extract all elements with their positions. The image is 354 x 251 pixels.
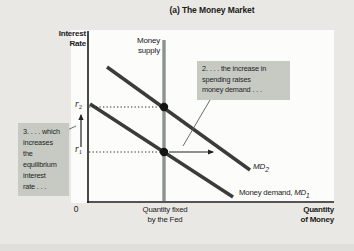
- md1-base: MD: [294, 188, 306, 197]
- callout3-line5: interest: [23, 170, 65, 181]
- x-tick-line1: Quantity fixed: [123, 205, 207, 215]
- callout3-line6: rate . . .: [23, 181, 65, 192]
- y-axis-label: Interest Rate: [28, 29, 86, 49]
- md1-subscript: 1: [306, 192, 309, 199]
- r1-subscript: 1: [79, 148, 82, 155]
- callout3-line2: increases: [23, 137, 65, 148]
- r2-subscript: 2: [79, 103, 82, 110]
- money-supply-label-line2: supply: [104, 46, 160, 56]
- callout-increases-equilibrium-rate: 3. . . . which increases the equilibrium…: [18, 123, 69, 196]
- x-tick-quantity-fixed: Quantity fixed by the Fed: [123, 205, 207, 225]
- callout3-line3: the: [23, 148, 65, 159]
- callout3-line1: 3. . . . which: [23, 126, 65, 137]
- md2-curve-label: MD2: [253, 162, 269, 173]
- x-axis-label: Quantity of Money: [272, 205, 334, 225]
- callout2-line3: money demand . . .: [202, 85, 286, 96]
- md2-base: MD: [253, 162, 265, 171]
- x-tick-line2: by the Fed: [123, 215, 207, 225]
- callout-increase-in-spending: 2. . . . the increase in spending raises…: [197, 61, 290, 100]
- scan-edge-shade: [0, 244, 354, 251]
- origin-label: 0: [70, 204, 82, 214]
- md1-prefix: Money demand,: [239, 188, 294, 197]
- x-axis-label-line1: Quantity: [272, 205, 334, 215]
- equilibrium-point-r2: [160, 103, 168, 111]
- md2-subscript: 2: [265, 166, 269, 173]
- money-supply-label-line1: Money: [104, 36, 160, 46]
- y-axis-label-line2: Rate: [28, 39, 86, 49]
- y-axis-label-line1: Interest: [28, 29, 86, 39]
- callout2-line1: 2. . . . the increase in: [202, 64, 286, 75]
- callout2-line2: spending raises: [202, 75, 286, 86]
- x-axis-label-line2: of Money: [272, 215, 334, 225]
- money-supply-label: Money supply: [104, 36, 160, 56]
- callout3-line4: equilibrium: [23, 159, 65, 170]
- md1-curve-label: Money demand, MD1: [239, 188, 309, 199]
- y-tick-r2: r2: [62, 99, 82, 109]
- equilibrium-point-r1: [160, 148, 168, 156]
